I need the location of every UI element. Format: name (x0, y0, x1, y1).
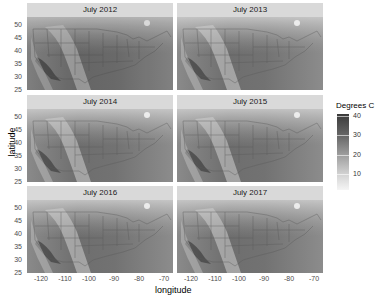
y-tick-label: 45 (6, 217, 22, 224)
x-tick-label: -120 (181, 275, 201, 282)
x-tick-label: -110 (55, 275, 75, 282)
y-tick-label: 50 (6, 113, 22, 120)
y-tick-label: 25 (6, 269, 22, 276)
facet-panel-2015: July 2015 (177, 95, 323, 182)
facet-strip-label: July 2017 (177, 186, 323, 200)
x-tick-label: -90 (254, 275, 274, 282)
facet-strip-label: July 2016 (27, 186, 173, 200)
x-tick-label: -80 (129, 275, 149, 282)
x-tick-label: -70 (154, 275, 174, 282)
y-tick-label: 50 (6, 204, 22, 211)
heatmap-map (177, 200, 323, 273)
legend-colorbar (337, 114, 349, 190)
x-tick-label: -110 (205, 275, 225, 282)
heatmap-map (177, 17, 323, 90)
facet-panel-2017: July 2017 (177, 186, 323, 273)
y-tick-label: 30 (6, 73, 22, 80)
y-tick-label: 30 (6, 256, 22, 263)
legend-title: Degrees C (336, 101, 374, 110)
x-tick-label: -90 (104, 275, 124, 282)
y-tick-label: 40 (6, 47, 22, 54)
legend-label: 10 (353, 170, 361, 177)
x-axis-title: longitude (155, 285, 192, 295)
facet-panel-2012: July 2012 (27, 3, 173, 90)
y-tick-label: 45 (6, 34, 22, 41)
y-tick-label: 25 (6, 178, 22, 185)
y-tick-label: 35 (6, 152, 22, 159)
y-tick-label: 35 (6, 60, 22, 67)
x-tick-label: -100 (79, 275, 99, 282)
heatmap-map (27, 200, 173, 273)
x-tick-label: -120 (31, 275, 51, 282)
y-tick-label: 50 (6, 21, 22, 28)
x-tick-label: -80 (279, 275, 299, 282)
legend-label: 30 (353, 131, 361, 138)
facet-strip-label: July 2013 (177, 3, 323, 17)
facet-panel-2013: July 2013 (177, 3, 323, 90)
heatmap-map (177, 109, 323, 182)
colorbar-tick (337, 174, 349, 175)
y-tick-label: 40 (6, 230, 22, 237)
heatmap-map (27, 17, 173, 90)
facet-strip-label: July 2014 (27, 95, 173, 109)
x-tick-label: -100 (229, 275, 249, 282)
heatmap-map (27, 109, 173, 182)
x-tick-label: -70 (304, 275, 324, 282)
legend-label: 40 (353, 112, 361, 119)
y-tick-label: 40 (6, 139, 22, 146)
colorbar-tick (337, 135, 349, 136)
colorbar-tick (337, 116, 349, 117)
facet-panel-2016: July 2016 (27, 186, 173, 273)
y-tick-label: 25 (6, 86, 22, 93)
y-tick-label: 30 (6, 165, 22, 172)
legend-label: 20 (353, 151, 361, 158)
y-tick-label: 35 (6, 243, 22, 250)
colorbar-tick (337, 155, 349, 156)
facet-strip-label: July 2015 (177, 95, 323, 109)
facet-strip-label: July 2012 (27, 3, 173, 17)
y-tick-label: 45 (6, 126, 22, 133)
facet-panel-2014: July 2014 (27, 95, 173, 182)
